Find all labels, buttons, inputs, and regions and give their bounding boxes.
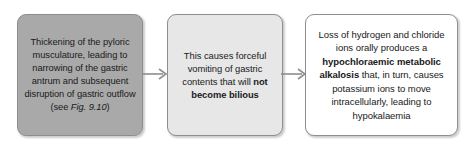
flow-box-3-text: Loss of hydrogen and chloride ions orall… [306,28,457,122]
flow-box-1-text: Thickening of the pyloric musculature, l… [18,36,142,115]
flow-box-3: Loss of hydrogen and chloride ions orall… [305,14,458,136]
flow-arrow-1-icon [142,66,170,82]
flow-chart: Thickening of the pyloric musculature, l… [0,0,471,149]
flow-box-2-text: This causes forceful vomiting of gastric… [168,49,282,101]
flow-box-1: Thickening of the pyloric musculature, l… [17,14,143,136]
flow-box-2: This causes forceful vomiting of gastric… [167,14,283,136]
